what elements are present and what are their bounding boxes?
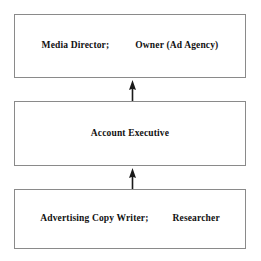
- node-bottom-row: Advertising Copy Writer; Researcher: [15, 214, 245, 224]
- node-top-row: Media Director; Owner (Ad Agency): [15, 41, 245, 51]
- hierarchy-diagram: Media Director; Owner (Ad Agency) Accoun…: [0, 0, 261, 261]
- arrow-up-icon: [127, 79, 138, 102]
- node-box-media-director-owner: Media Director; Owner (Ad Agency): [14, 14, 246, 78]
- node-top-label-owner-ad-agency: Owner (Ad Agency): [135, 41, 218, 51]
- node-box-copy-writer-researcher: Advertising Copy Writer; Researcher: [14, 189, 246, 249]
- arrow-middle-to-top: [127, 79, 138, 102]
- arrow-bottom-to-middle: [127, 167, 138, 190]
- node-bottom-label-advertising-copy-writer: Advertising Copy Writer;: [40, 214, 148, 224]
- node-top-label-media-director: Media Director;: [42, 41, 110, 51]
- node-box-account-executive: Account Executive: [14, 101, 246, 166]
- arrow-up-icon: [127, 167, 138, 190]
- node-middle-label-account-executive: Account Executive: [91, 129, 169, 139]
- node-bottom-label-researcher: Researcher: [173, 214, 220, 224]
- node-middle-row: Account Executive: [91, 129, 169, 139]
